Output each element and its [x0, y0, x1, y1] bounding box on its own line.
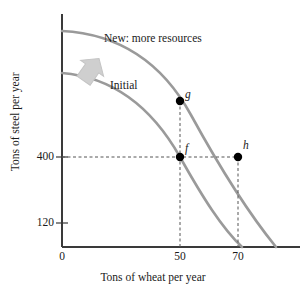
y-tick-label-400: 400 — [20, 151, 54, 163]
y-axis-title: Tons of steel per year — [10, 62, 22, 182]
curve-initial — [62, 73, 242, 247]
point-label-h: h — [243, 140, 249, 152]
x-tick-label-0: 0 — [50, 251, 74, 263]
x-tick-label-70: 70 — [226, 251, 250, 263]
point-label-f: f — [185, 143, 188, 155]
curve-label-new: New: more resources — [104, 33, 202, 45]
point-label-g: g — [185, 89, 191, 101]
ppf-chart-figure: Tons of steel per year Tons of wheat per… — [0, 0, 306, 292]
curve-label-initial: Initial — [110, 80, 137, 92]
data-point-f — [176, 153, 184, 161]
x-tick-label-50: 50 — [168, 251, 192, 263]
data-point-h — [234, 153, 242, 161]
y-tick-label-120: 120 — [20, 217, 54, 229]
x-axis-title: Tons of wheat per year — [0, 272, 306, 284]
data-point-g — [176, 97, 184, 105]
